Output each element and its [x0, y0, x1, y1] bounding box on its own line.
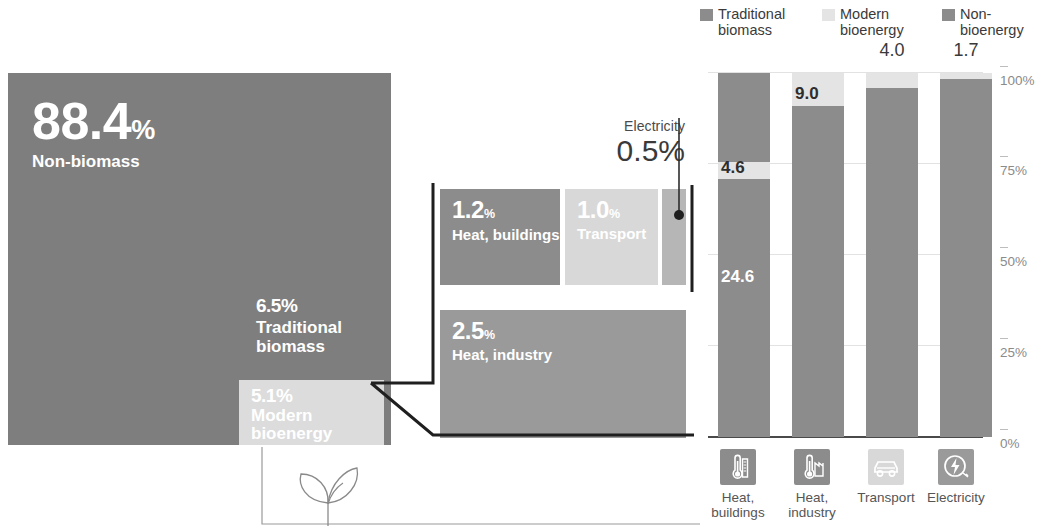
plot-area: 100% 75% 50% 25% 0% 24.6 4.6 9.0 4.0: [708, 72, 983, 437]
detail-block-label: 1.0% Transport: [577, 197, 646, 242]
thermometer-building-icon: [720, 449, 756, 485]
legend-swatch-icon: [822, 9, 835, 21]
segment-non-bioenergy: [718, 179, 770, 437]
y-tick-75: 75%: [1000, 148, 1027, 178]
segment-non-bioenergy: [866, 88, 918, 437]
detail-block-heat-industry: 2.5% Heat, industry: [440, 310, 686, 438]
electricity-callout-label: Electricity: [577, 118, 685, 134]
thermometer-industry-icon: [794, 449, 830, 485]
category-label: Transport: [851, 490, 921, 505]
treemap-modern-pct: 5.1%: [251, 386, 384, 407]
category-electricity: Electricity: [921, 449, 991, 505]
bar-label-modern: 1.7: [940, 40, 992, 61]
chart-legend: Traditional biomass Modern bioenergy Non…: [700, 6, 1046, 38]
detail-block-label: 2.5% Heat, industry: [452, 318, 552, 363]
legend-swatch-icon: [942, 9, 955, 21]
bar-heat-buildings: 24.6 4.6: [718, 73, 770, 437]
plant-sprout-icon: [285, 458, 371, 528]
bar-chart: Traditional biomass Modern bioenergy Non…: [694, 0, 1046, 531]
detail-heat-buildings-label: Heat, buildings: [452, 226, 560, 243]
detail-block-transport: 1.0% Transport: [565, 189, 658, 285]
segment-modern-bioenergy: [940, 73, 992, 79]
treemap-traditional-label: Traditional biomass: [256, 318, 384, 356]
detail-heat-industry-label: Heat, industry: [452, 347, 552, 363]
legend-item-non-bioenergy: Non-bioenergy: [942, 6, 1038, 38]
detail-transport-pct: 1.0%: [577, 197, 646, 223]
treemap-block-label: 88.4% Non-biomass: [32, 93, 155, 172]
legend-swatch-icon: [700, 9, 713, 21]
category-transport: Transport: [851, 449, 921, 505]
treemap-block-traditional-biomass: 6.5% Traditional biomass: [244, 288, 384, 378]
bar-electricity: 1.7: [940, 73, 992, 437]
y-tick-25: 25%: [1000, 330, 1027, 360]
bar-label-modern: 4.0: [866, 40, 918, 61]
car-icon: [868, 449, 904, 485]
detail-block-electricity: [662, 189, 686, 285]
detail-block-heat-buildings: 1.2% Heat, buildings: [440, 189, 560, 285]
bar-label-traditional: 24.6: [721, 267, 754, 287]
treemap-block-label: 5.1% Modern bioenergy: [251, 386, 384, 444]
treemap-block-modern-bioenergy: 5.1% Modern bioenergy: [239, 380, 384, 445]
bar-label-modern: 9.0: [795, 84, 819, 104]
treemap-non-biomass-pct: 88.4%: [32, 93, 155, 149]
bar-label-modern: 4.6: [721, 158, 745, 178]
detail-block-label: 1.2% Heat, buildings: [452, 197, 560, 243]
category-heat-buildings: Heat, buildings: [703, 449, 773, 520]
segment-traditional-biomass: [718, 73, 770, 162]
category-heat-industry: Heat, industry: [777, 449, 847, 520]
segment-modern-bioenergy: [866, 73, 918, 88]
category-label: Heat, industry: [777, 490, 847, 520]
legend-label: Traditional biomass: [718, 6, 812, 38]
detail-heat-buildings-pct: 1.2%: [452, 197, 560, 223]
electricity-callout: Electricity 0.5%: [577, 118, 685, 166]
category-label: Electricity: [921, 490, 991, 505]
legend-item-traditional-biomass: Traditional biomass: [700, 6, 812, 38]
y-tick-100: 100%: [1000, 58, 1035, 88]
bar-heat-industry: 9.0: [792, 73, 844, 437]
treemap-block-label: 6.5% Traditional biomass: [256, 296, 384, 356]
segment-non-bioenergy: [940, 79, 992, 437]
y-tick-50: 50%: [1000, 239, 1027, 269]
category-label: Heat, buildings: [703, 490, 773, 520]
y-tick-0: 0%: [1000, 421, 1020, 451]
electricity-callout-value: 0.5%: [577, 136, 685, 166]
detail-heat-industry-pct: 2.5%: [452, 318, 552, 344]
legend-item-modern-bioenergy: Modern bioenergy: [822, 6, 932, 38]
detail-transport-label: Transport: [577, 226, 646, 242]
treemap-non-biomass-label: Non-biomass: [32, 153, 155, 171]
treemap-traditional-pct: 6.5%: [256, 296, 384, 317]
treemap-modern-label: Modern bioenergy: [251, 407, 384, 444]
segment-non-bioenergy: [792, 106, 844, 437]
bar-transport: 4.0: [866, 73, 918, 437]
electricity-bolt-icon: [938, 449, 974, 485]
legend-label: Modern bioenergy: [840, 6, 932, 38]
legend-label: Non-bioenergy: [960, 6, 1038, 38]
